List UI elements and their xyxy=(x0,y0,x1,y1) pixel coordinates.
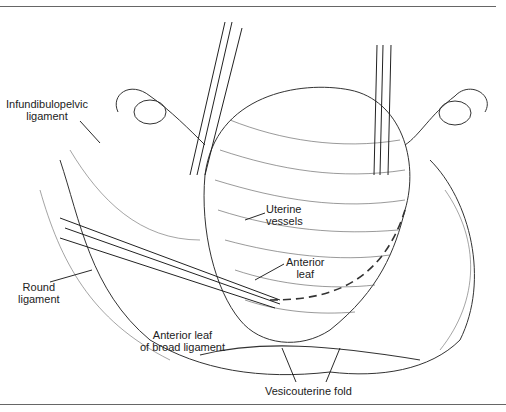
label-line-2: ligament xyxy=(6,110,88,122)
label-anterior-leaf-broad-ligament: Anterior leaf of broad ligament xyxy=(140,329,225,353)
leader-vesicouterine-right xyxy=(326,348,340,382)
label-line-2: ligament xyxy=(18,293,60,305)
label-line-2: of broad ligament xyxy=(140,341,225,353)
label-line-2: leaf xyxy=(286,268,325,280)
left-tube xyxy=(116,89,205,145)
label-anterior-leaf: Anterior leaf xyxy=(286,256,325,280)
left-ovary xyxy=(134,100,166,124)
surgical-illustration xyxy=(0,0,506,412)
broad-ligament-right xyxy=(330,160,474,374)
leader-infundibulopelvic xyxy=(80,121,100,143)
leader-vesicouterine-left xyxy=(282,348,296,382)
left-clamp xyxy=(190,22,242,175)
leader-uterine-vessels xyxy=(245,213,265,220)
label-uterine-vessels: Uterine vessels xyxy=(266,203,303,227)
right-clamp xyxy=(374,45,391,175)
forceps xyxy=(60,218,280,308)
label-line-2: vessels xyxy=(266,215,303,227)
label-line-1: Round xyxy=(18,281,60,293)
label-line-1: Infundibulopelvic xyxy=(6,98,88,110)
label-vesicouterine-fold: Vesicouterine fold xyxy=(265,385,352,397)
right-ovary xyxy=(439,101,471,125)
label-round-ligament: Round ligament xyxy=(18,281,60,305)
leader-anterior-leaf xyxy=(255,264,284,280)
label-line-1: Anterior leaf xyxy=(140,329,225,341)
right-tube xyxy=(405,89,487,145)
label-line-1: Uterine xyxy=(266,203,303,215)
label-infundibulopelvic-ligament: Infundibulopelvic ligament xyxy=(6,98,88,122)
vesicouterine-fold-line xyxy=(200,346,420,360)
label-line-1: Anterior xyxy=(286,256,325,268)
